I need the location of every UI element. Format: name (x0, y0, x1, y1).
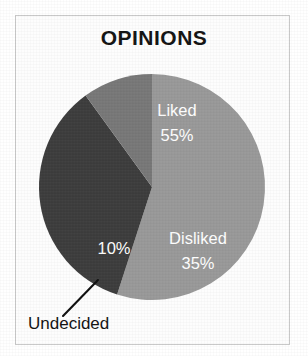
slice-label-disliked: Disliked (169, 229, 227, 247)
slice-callout-label-undecided: Undecided (28, 314, 109, 333)
pie-chart-figure: OPINIONS Liked 55% Disliked 35% 10% Unde… (0, 0, 308, 356)
slice-value-undecided: 10% (97, 239, 130, 257)
undecided-leader-line (63, 280, 98, 316)
pie-chart-svg: Liked 55% Disliked 35% 10% Undecided (0, 0, 308, 356)
slice-value-disliked: 35% (181, 254, 214, 272)
slice-label-liked: Liked (157, 101, 196, 119)
slice-value-liked: 55% (160, 126, 193, 144)
